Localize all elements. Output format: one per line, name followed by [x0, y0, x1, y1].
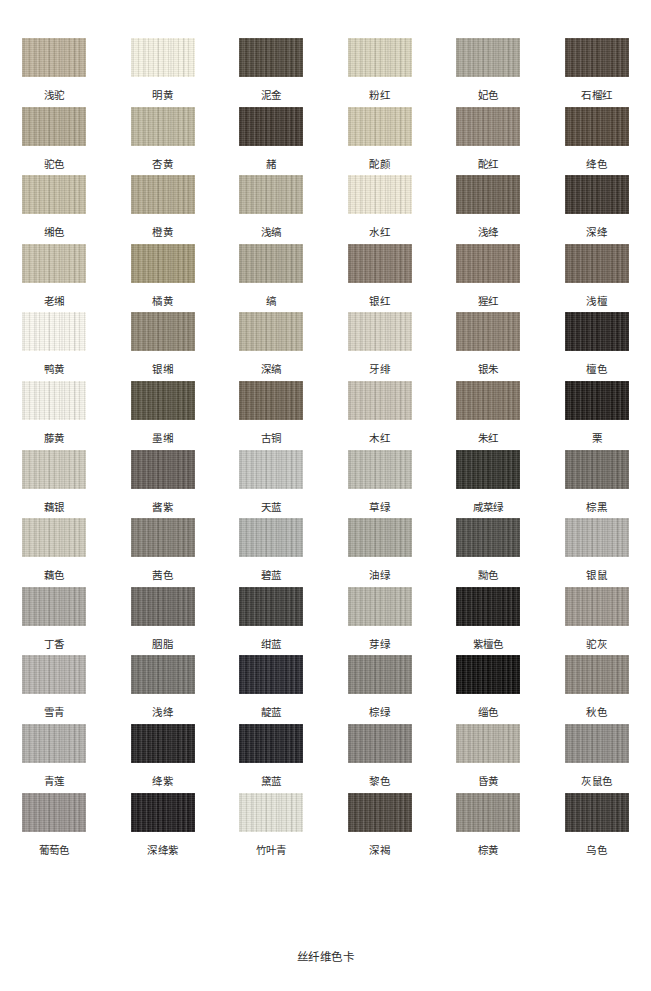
swatch-cell[interactable]: 杏黄	[109, 107, 218, 176]
swatch-cell[interactable]: 昏黄	[434, 724, 543, 793]
swatch-cell[interactable]: 竹叶青	[217, 793, 326, 862]
swatch-cell[interactable]: 棕黄	[434, 793, 543, 862]
swatch-cell[interactable]: 檀色	[543, 312, 651, 381]
swatch-cell[interactable]: 葡萄色	[0, 793, 109, 862]
swatch-cell[interactable]: 绛紫	[109, 724, 218, 793]
swatch-chip[interactable]	[22, 793, 86, 832]
swatch-cell[interactable]: 石榴红	[543, 38, 651, 107]
swatch-chip[interactable]	[22, 107, 86, 146]
swatch-chip[interactable]	[456, 175, 520, 214]
swatch-chip[interactable]	[239, 381, 303, 420]
swatch-cell[interactable]: 银缃	[109, 312, 218, 381]
swatch-cell[interactable]: 黝色	[434, 518, 543, 587]
swatch-cell[interactable]: 紫檀色	[434, 587, 543, 656]
swatch-chip[interactable]	[565, 587, 629, 626]
swatch-chip[interactable]	[239, 724, 303, 763]
swatch-cell[interactable]: 深褐	[326, 793, 435, 862]
swatch-chip[interactable]	[456, 381, 520, 420]
swatch-chip[interactable]	[348, 107, 412, 146]
swatch-chip[interactable]	[565, 107, 629, 146]
swatch-cell[interactable]: 油绿	[326, 518, 435, 587]
swatch-chip[interactable]	[239, 312, 303, 351]
swatch-chip[interactable]	[565, 381, 629, 420]
swatch-cell[interactable]: 橘黄	[109, 244, 218, 313]
swatch-cell[interactable]: 天蓝	[217, 450, 326, 519]
swatch-cell[interactable]: 藤黄	[0, 381, 109, 450]
swatch-chip[interactable]	[131, 312, 195, 351]
swatch-chip[interactable]	[131, 724, 195, 763]
swatch-cell[interactable]: 棕绿	[326, 655, 435, 724]
swatch-cell[interactable]: 明黄	[109, 38, 218, 107]
swatch-cell[interactable]: 灰鼠色	[543, 724, 651, 793]
swatch-cell[interactable]: 绛色	[543, 107, 651, 176]
swatch-chip[interactable]	[456, 244, 520, 283]
swatch-chip[interactable]	[239, 655, 303, 694]
swatch-chip[interactable]	[348, 381, 412, 420]
swatch-chip[interactable]	[22, 655, 86, 694]
swatch-chip[interactable]	[348, 38, 412, 77]
swatch-chip[interactable]	[565, 518, 629, 557]
swatch-cell[interactable]: 缟	[217, 244, 326, 313]
swatch-cell[interactable]: 碧蓝	[217, 518, 326, 587]
swatch-chip[interactable]	[22, 587, 86, 626]
swatch-chip[interactable]	[565, 724, 629, 763]
swatch-chip[interactable]	[22, 175, 86, 214]
swatch-chip[interactable]	[22, 244, 86, 283]
swatch-cell[interactable]: 猩红	[434, 244, 543, 313]
swatch-cell[interactable]: 缁色	[434, 655, 543, 724]
swatch-cell[interactable]: 浅驼	[0, 38, 109, 107]
swatch-chip[interactable]	[565, 244, 629, 283]
swatch-cell[interactable]: 赭	[217, 107, 326, 176]
swatch-cell[interactable]: 茜色	[109, 518, 218, 587]
swatch-chip[interactable]	[239, 175, 303, 214]
swatch-chip[interactable]	[239, 107, 303, 146]
swatch-cell[interactable]: 泥金	[217, 38, 326, 107]
swatch-cell[interactable]: 浅绛	[434, 175, 543, 244]
swatch-cell[interactable]: 古铜	[217, 381, 326, 450]
swatch-chip[interactable]	[565, 312, 629, 351]
swatch-cell[interactable]: 酡颜	[326, 107, 435, 176]
swatch-cell[interactable]: 深缟	[217, 312, 326, 381]
swatch-chip[interactable]	[131, 587, 195, 626]
swatch-chip[interactable]	[348, 244, 412, 283]
swatch-cell[interactable]: 藕银	[0, 450, 109, 519]
swatch-cell[interactable]: 胭脂	[109, 587, 218, 656]
swatch-chip[interactable]	[565, 175, 629, 214]
swatch-cell[interactable]: 草绿	[326, 450, 435, 519]
swatch-chip[interactable]	[131, 793, 195, 832]
swatch-chip[interactable]	[456, 724, 520, 763]
swatch-chip[interactable]	[565, 38, 629, 77]
swatch-chip[interactable]	[131, 518, 195, 557]
swatch-cell[interactable]: 酱紫	[109, 450, 218, 519]
swatch-cell[interactable]: 朱红	[434, 381, 543, 450]
swatch-cell[interactable]: 银红	[326, 244, 435, 313]
swatch-cell[interactable]: 妃色	[434, 38, 543, 107]
swatch-cell[interactable]: 秋色	[543, 655, 651, 724]
swatch-chip[interactable]	[22, 724, 86, 763]
swatch-chip[interactable]	[239, 244, 303, 283]
swatch-chip[interactable]	[239, 587, 303, 626]
swatch-cell[interactable]: 咸菜绿	[434, 450, 543, 519]
swatch-chip[interactable]	[239, 793, 303, 832]
swatch-chip[interactable]	[131, 381, 195, 420]
swatch-chip[interactable]	[348, 312, 412, 351]
swatch-chip[interactable]	[131, 175, 195, 214]
swatch-cell[interactable]: 橙黄	[109, 175, 218, 244]
swatch-chip[interactable]	[456, 38, 520, 77]
swatch-cell[interactable]: 酡红	[434, 107, 543, 176]
swatch-chip[interactable]	[456, 312, 520, 351]
swatch-chip[interactable]	[565, 450, 629, 489]
swatch-chip[interactable]	[239, 518, 303, 557]
swatch-cell[interactable]: 驼灰	[543, 587, 651, 656]
swatch-chip[interactable]	[565, 793, 629, 832]
swatch-chip[interactable]	[239, 450, 303, 489]
swatch-cell[interactable]: 青莲	[0, 724, 109, 793]
swatch-cell[interactable]: 浅檀	[543, 244, 651, 313]
swatch-cell[interactable]: 粉红	[326, 38, 435, 107]
swatch-chip[interactable]	[131, 38, 195, 77]
swatch-chip[interactable]	[22, 381, 86, 420]
swatch-cell[interactable]: 雪青	[0, 655, 109, 724]
swatch-cell[interactable]: 深绛	[543, 175, 651, 244]
swatch-cell[interactable]: 驼色	[0, 107, 109, 176]
swatch-chip[interactable]	[456, 107, 520, 146]
